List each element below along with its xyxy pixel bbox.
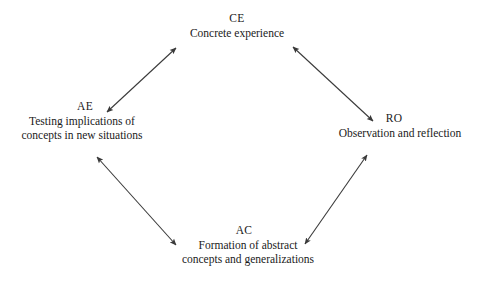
- node-ac: AC Formation of abstract concepts and ge…: [167, 223, 329, 267]
- node-ro-label: Observation and reflection: [321, 126, 479, 141]
- node-ro-code: RO: [309, 111, 479, 126]
- node-ce-label: Concrete experience: [161, 26, 313, 41]
- node-ae-code: AE: [12, 99, 158, 114]
- node-ae: AE Testing implications of concepts in n…: [6, 99, 158, 143]
- node-ac-code: AC: [159, 223, 329, 238]
- node-ac-label: Formation of abstract concepts and gener…: [167, 238, 329, 267]
- diagram-canvas: CE Concrete experience AE Testing implic…: [0, 0, 488, 290]
- edge-ce-ro: [293, 47, 373, 121]
- node-ce-code: CE: [161, 11, 313, 26]
- node-ae-label: Testing implications of concepts in new …: [6, 114, 158, 143]
- node-ro: RO Observation and reflection: [321, 111, 479, 140]
- node-ce: CE Concrete experience: [161, 11, 313, 40]
